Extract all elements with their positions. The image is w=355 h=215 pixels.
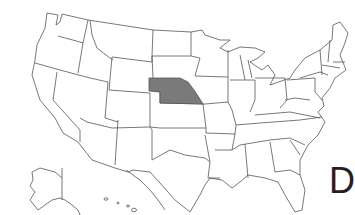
hawaii-islands [104,198,137,212]
us-outline [32,13,348,212]
panel-letter-label: D [329,163,355,199]
alaska-outline [30,168,80,215]
